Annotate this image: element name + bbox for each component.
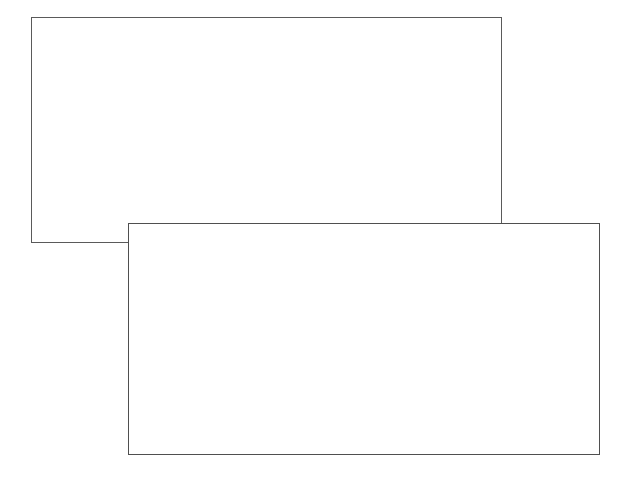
back-panel[interactable] <box>31 17 502 243</box>
back-panel-body <box>32 18 501 242</box>
front-panel-body <box>129 224 599 454</box>
screen-canvas <box>0 0 627 486</box>
front-panel[interactable] <box>128 223 600 455</box>
